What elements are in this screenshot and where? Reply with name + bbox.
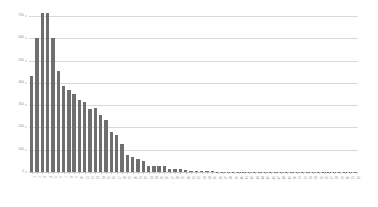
x-tick-mark — [239, 172, 240, 174]
bar[interactable] — [131, 157, 134, 172]
bar[interactable] — [136, 159, 139, 172]
x-tick-mark — [218, 172, 219, 174]
x-tick-mark — [191, 172, 192, 174]
x-tick-mark — [85, 172, 86, 174]
x-tick-mark — [281, 172, 282, 174]
bar[interactable] — [62, 86, 65, 172]
x-tick-mark — [345, 172, 346, 174]
y-tick-mark — [25, 16, 27, 17]
bar[interactable] — [41, 13, 44, 172]
x-tick-mark — [69, 172, 70, 174]
bar[interactable] — [46, 13, 49, 172]
x-tick-mark — [37, 172, 38, 174]
x-tick-mark — [356, 172, 357, 174]
x-tick-mark — [95, 172, 96, 174]
x-axis: 1234567891011121314151617181920212223242… — [29, 172, 358, 204]
x-tick-mark — [122, 172, 123, 174]
bar[interactable] — [94, 108, 97, 172]
x-tick-mark — [196, 172, 197, 174]
plot-area — [29, 16, 358, 172]
bar[interactable] — [67, 90, 70, 172]
x-tick-mark — [276, 172, 277, 174]
y-tick-mark — [25, 127, 27, 128]
y-tick-mark — [25, 60, 27, 61]
y-tick-mark — [25, 38, 27, 39]
bar[interactable] — [110, 132, 113, 172]
y-tick-label: 0 — [22, 170, 24, 173]
x-tick-mark — [260, 172, 261, 174]
y-tick-mark — [25, 82, 27, 83]
x-tick-mark — [79, 172, 80, 174]
y-axis: 7006005004003002001000 — [0, 16, 27, 172]
x-tick-mark — [53, 172, 54, 174]
x-tick-mark — [265, 172, 266, 174]
bar[interactable] — [88, 109, 91, 172]
x-tick-mark — [324, 172, 325, 174]
x-tick-mark — [180, 172, 181, 174]
x-tick-mark — [111, 172, 112, 174]
x-tick-mark — [149, 172, 150, 174]
bar[interactable] — [35, 38, 38, 172]
bar-series — [29, 16, 358, 172]
x-tick-mark — [106, 172, 107, 174]
x-tick-mark — [234, 172, 235, 174]
x-tick-mark — [164, 172, 165, 174]
y-tick-label: 400 — [18, 81, 24, 84]
x-tick-mark — [244, 172, 245, 174]
x-tick-mark — [223, 172, 224, 174]
x-tick-mark — [175, 172, 176, 174]
x-tick-mark — [319, 172, 320, 174]
x-tick-mark — [154, 172, 155, 174]
x-tick-mark — [287, 172, 288, 174]
bar[interactable] — [72, 94, 75, 172]
x-tick-mark — [74, 172, 75, 174]
x-tick-mark — [117, 172, 118, 174]
bar[interactable] — [120, 144, 123, 172]
bar-chart: 7006005004003002001000 12345678910111213… — [0, 0, 378, 207]
x-tick-mark — [48, 172, 49, 174]
bar[interactable] — [104, 120, 107, 172]
bar[interactable] — [57, 71, 60, 172]
x-tick-mark — [90, 172, 91, 174]
x-tick-label: 62 — [357, 176, 360, 179]
y-tick-label: 200 — [18, 126, 24, 129]
x-tick-mark — [101, 172, 102, 174]
x-tick-mark — [249, 172, 250, 174]
x-tick-mark — [186, 172, 187, 174]
bar[interactable] — [115, 135, 118, 172]
bar-slot — [353, 16, 358, 172]
x-tick-mark — [202, 172, 203, 174]
bar[interactable] — [142, 161, 145, 172]
bar[interactable] — [30, 76, 33, 172]
x-tick-mark — [32, 172, 33, 174]
y-tick-mark — [25, 149, 27, 150]
y-tick-label: 500 — [18, 59, 24, 62]
x-tick-mark — [143, 172, 144, 174]
x-tick-mark — [350, 172, 351, 174]
x-tick-mark — [207, 172, 208, 174]
x-tick-mark — [58, 172, 59, 174]
x-tick-mark — [340, 172, 341, 174]
x-tick-mark — [64, 172, 65, 174]
bar[interactable] — [99, 115, 102, 172]
x-tick-mark — [308, 172, 309, 174]
y-tick-mark — [25, 172, 27, 173]
x-tick-mark — [138, 172, 139, 174]
x-tick-mark — [303, 172, 304, 174]
x-tick-mark — [255, 172, 256, 174]
x-tick-mark — [127, 172, 128, 174]
x-tick-mark — [170, 172, 171, 174]
bar[interactable] — [83, 102, 86, 172]
x-tick-mark — [334, 172, 335, 174]
bar[interactable] — [78, 100, 81, 172]
y-tick-label: 700 — [18, 14, 24, 17]
bar[interactable] — [51, 38, 54, 172]
y-tick-label: 100 — [18, 148, 24, 151]
bar[interactable] — [126, 155, 129, 172]
x-tick-mark — [292, 172, 293, 174]
x-tick-slot: 62 — [353, 172, 358, 204]
x-tick-mark — [313, 172, 314, 174]
y-tick-label: 300 — [18, 104, 24, 107]
x-tick-mark — [228, 172, 229, 174]
x-tick-mark — [212, 172, 213, 174]
